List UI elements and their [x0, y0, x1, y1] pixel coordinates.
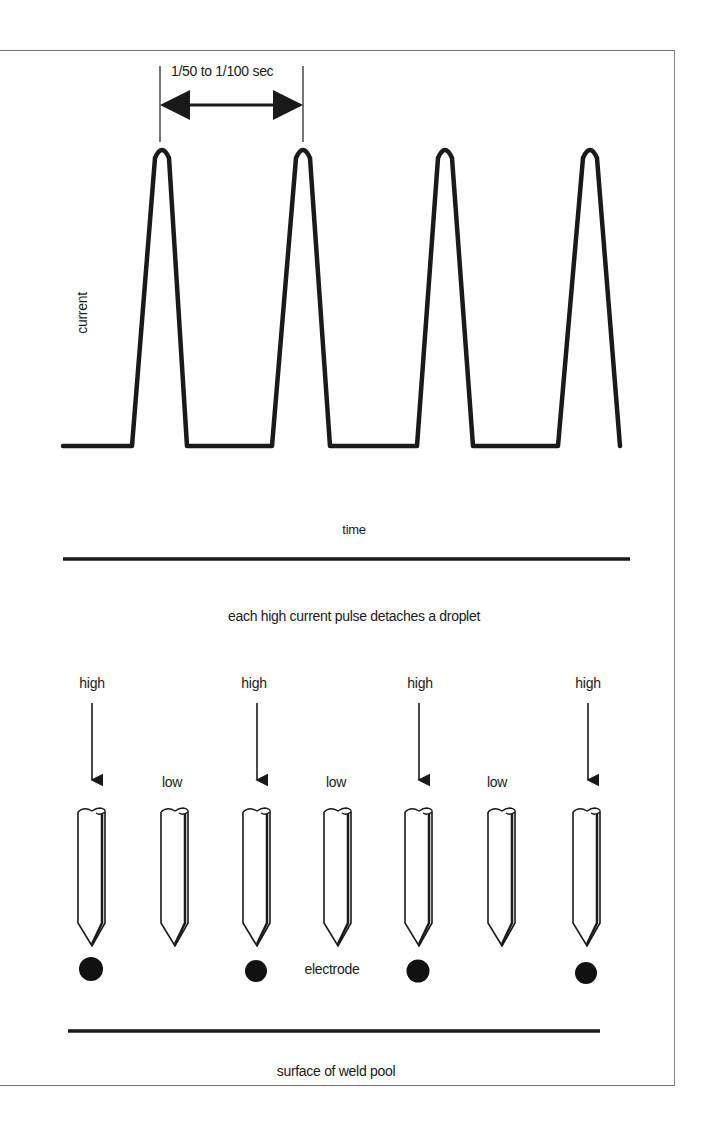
electrode-1	[78, 808, 105, 946]
droplet-3	[245, 960, 267, 982]
state-label-5: high	[407, 675, 432, 691]
electrode-6	[488, 808, 515, 946]
period-label: 1/50 to 1/100 sec	[171, 63, 273, 79]
high-arrows	[92, 703, 588, 780]
droplet-5	[407, 960, 430, 983]
state-label-1: high	[79, 675, 104, 691]
electrode-label: electrode	[305, 961, 360, 977]
droplet-1	[79, 957, 103, 981]
droplet-7	[575, 962, 597, 984]
electrode-3	[243, 808, 270, 946]
state-label-2: low	[162, 774, 182, 790]
y-axis-label: current	[74, 292, 90, 333]
x-axis-label: time	[342, 522, 365, 537]
droplet-caption: each high current pulse detaches a dropl…	[228, 608, 480, 624]
electrode-7	[573, 808, 600, 946]
electrode-2	[161, 808, 188, 946]
electrode-5	[405, 808, 432, 946]
state-label-6: low	[487, 774, 507, 790]
diagram-canvas	[0, 0, 702, 1122]
state-label-4: low	[326, 774, 346, 790]
state-label-7: high	[575, 675, 600, 691]
state-label-3: high	[241, 675, 266, 691]
pulse-waveform	[63, 150, 620, 446]
electrode-4	[324, 808, 351, 946]
surface-label: surface of weld pool	[277, 1063, 396, 1079]
